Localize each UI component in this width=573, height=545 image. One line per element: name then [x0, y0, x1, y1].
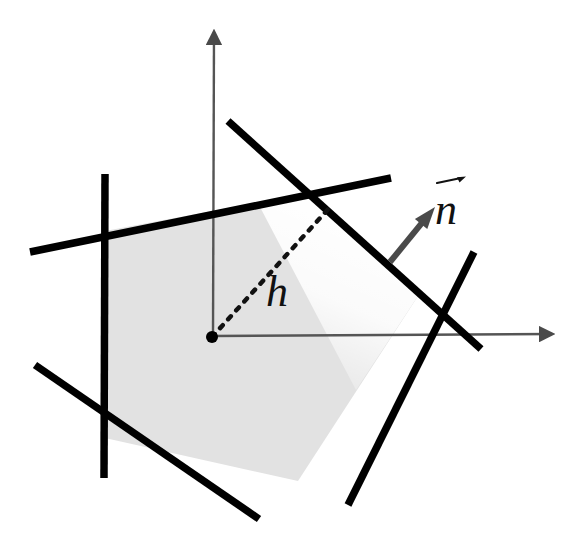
label-h: h	[266, 270, 288, 314]
line-left-vertical	[104, 174, 105, 478]
geometry-figure: h n	[0, 0, 573, 545]
label-n-vector: n	[435, 188, 457, 232]
y-axis	[213, 32, 214, 337]
n-glyph-stack: n	[435, 188, 457, 232]
origin-point	[206, 331, 218, 343]
normal-vector-arrow	[390, 207, 435, 262]
n-letter: n	[435, 185, 457, 234]
